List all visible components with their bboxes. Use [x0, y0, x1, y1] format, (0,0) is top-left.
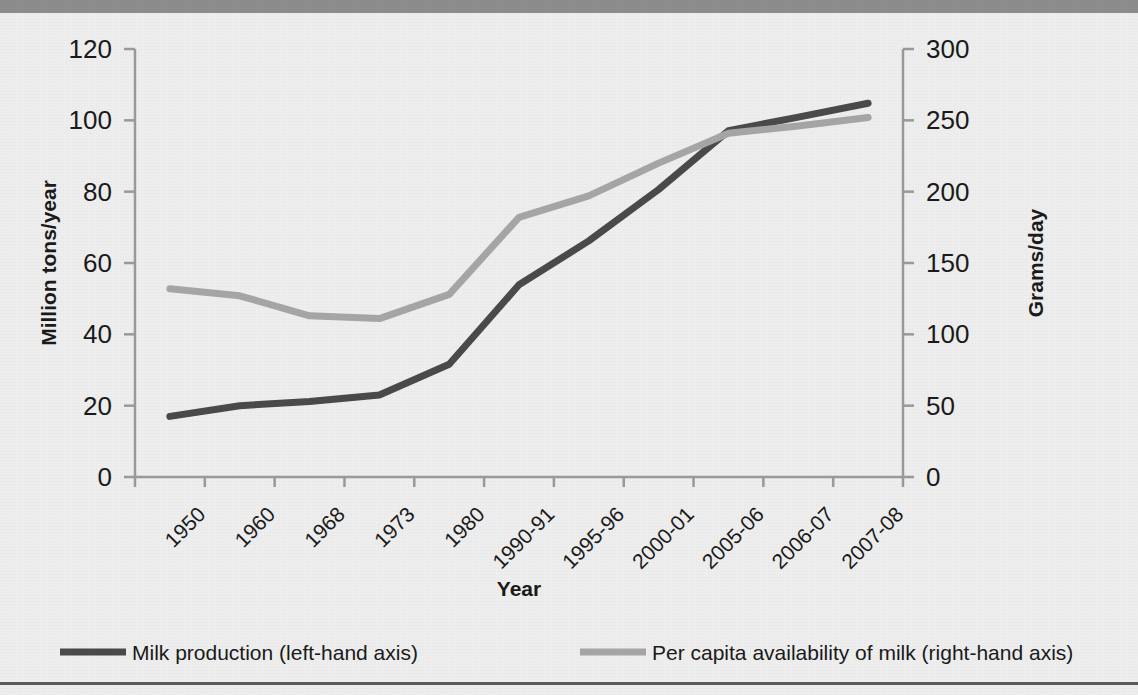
right-tick-label: 100: [926, 319, 969, 349]
right-axis-ticks: [903, 49, 914, 477]
x-category-label: 1960: [230, 502, 279, 551]
legend-label-1: Milk production (left-hand axis): [132, 641, 418, 664]
x-category-label: 2007-08: [837, 502, 908, 573]
x-category-label: 1995-96: [558, 502, 629, 573]
x-category-label: 1968: [300, 502, 349, 551]
left-tick-label: 80: [83, 177, 112, 207]
x-category-label: 1980: [439, 502, 488, 551]
left-tick-label: 100: [69, 105, 112, 135]
right-axis: 050100150200250300 Grams/day: [903, 34, 1047, 492]
right-tick-label: 300: [926, 34, 969, 64]
right-tick-label: 250: [926, 105, 969, 135]
right-axis-title: Grams/day: [1024, 208, 1047, 317]
chart-page: 020406080100120 Million tons/year 050100…: [0, 0, 1138, 695]
x-axis-category-labels: 195019601968197319801990-911995-962000-0…: [160, 502, 907, 573]
right-tick-label: 0: [926, 462, 940, 492]
x-category-label: 1973: [370, 502, 419, 551]
left-tick-label: 20: [83, 391, 112, 421]
chart-legend: Milk production (left-hand axis)Per capi…: [60, 641, 1073, 664]
right-tick-label: 150: [926, 248, 969, 278]
x-axis-title: Year: [497, 577, 541, 600]
line-chart-svg: 020406080100120 Million tons/year 050100…: [0, 13, 1138, 682]
legend-label-2: Per capita availability of milk (right-h…: [652, 641, 1073, 664]
left-axis-title: Million tons/year: [37, 180, 60, 346]
left-axis-ticks: [124, 49, 135, 477]
x-axis: 195019601968197319801990-911995-962000-0…: [135, 477, 908, 600]
right-axis-tick-labels: 050100150200250300: [926, 34, 969, 492]
left-tick-label: 60: [83, 248, 112, 278]
series-line-1: [170, 103, 868, 416]
bottom-divider-rule: [0, 682, 1138, 685]
left-axis: 020406080100120 Million tons/year: [37, 34, 135, 492]
right-tick-label: 50: [926, 391, 955, 421]
x-category-label: 2006-07: [767, 502, 838, 573]
left-tick-label: 120: [69, 34, 112, 64]
series-layer: [170, 103, 868, 416]
left-axis-tick-labels: 020406080100120: [69, 34, 112, 492]
x-axis-ticks: [135, 477, 903, 487]
top-banner-bar: [0, 0, 1138, 13]
x-category-label: 2000-01: [627, 502, 698, 573]
left-tick-label: 0: [98, 462, 112, 492]
right-tick-label: 200: [926, 177, 969, 207]
left-tick-label: 40: [83, 319, 112, 349]
x-category-label: 2005-06: [697, 502, 768, 573]
x-category-label: 1950: [160, 502, 209, 551]
chart-container: 020406080100120 Million tons/year 050100…: [0, 13, 1138, 682]
x-category-label: 1990-91: [488, 502, 559, 573]
